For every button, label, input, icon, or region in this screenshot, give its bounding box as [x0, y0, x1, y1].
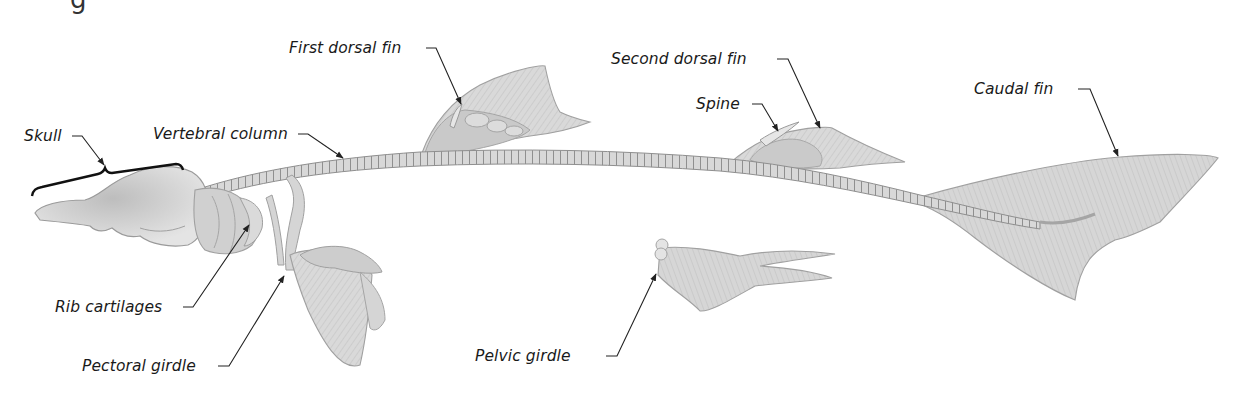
first-dorsal-fin-leader	[426, 48, 461, 104]
label-pectoral-girdle: Pectoral girdle	[82, 357, 196, 375]
skull-shape	[35, 167, 208, 246]
label-second-dorsal-fin: Second dorsal fin	[611, 50, 747, 68]
pectoral-girdle-shape	[266, 175, 385, 366]
label-spine: Spine	[696, 95, 740, 113]
rib-cartilages-shape	[194, 188, 263, 254]
label-pelvic-girdle: Pelvic girdle	[475, 347, 571, 365]
skull-leader	[72, 136, 104, 165]
caudal-fin-leader	[1078, 89, 1118, 156]
label-first-dorsal-fin: First dorsal fin	[289, 39, 401, 57]
vertebral-column-leader	[298, 134, 343, 158]
label-skull: Skull	[24, 127, 62, 145]
first-dorsal-fin-shape	[422, 66, 590, 155]
pectoral-girdle-leader	[218, 276, 284, 366]
pelvic-girdle-leader	[606, 274, 656, 356]
shark-skeleton-diagram: g	[0, 0, 1245, 409]
caudal-fin-shape	[920, 154, 1218, 300]
label-caudal-fin: Caudal fin	[974, 80, 1053, 98]
second-dorsal-fin-leader	[777, 59, 820, 128]
label-rib-cartilages: Rib cartilages	[55, 298, 162, 316]
pelvic-girdle-shape	[655, 239, 835, 311]
spine-leader	[752, 104, 778, 131]
label-vertebral-column: Vertebral column	[153, 125, 288, 143]
